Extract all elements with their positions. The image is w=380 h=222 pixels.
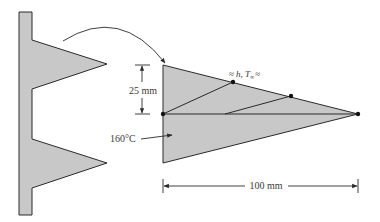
height-label: 25 mm bbox=[129, 85, 157, 96]
length-label: 100 mm bbox=[249, 180, 282, 191]
fin-diagram: 25 mm ≈h, T∞≈ 160°C 100 mm bbox=[0, 0, 380, 222]
node-2 bbox=[231, 80, 235, 84]
base-temperature-label: 160°C bbox=[110, 133, 136, 144]
convection-label: ≈h, T∞≈ bbox=[229, 69, 260, 80]
node-1 bbox=[161, 112, 165, 116]
node-4 bbox=[356, 112, 360, 116]
node-3 bbox=[289, 94, 293, 98]
wall-with-fins bbox=[19, 12, 107, 215]
